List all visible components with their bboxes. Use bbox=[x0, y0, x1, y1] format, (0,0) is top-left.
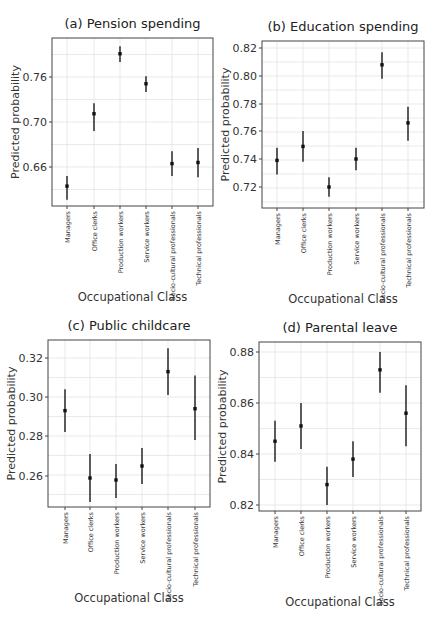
y-axis-label: Predicted probability bbox=[5, 366, 18, 480]
x-tick-label: Production workers bbox=[326, 212, 334, 275]
panel-parental-leave: 0.820.840.860.88ManagersOffice clerksPro… bbox=[216, 320, 421, 609]
y-tick-label: 0.78 bbox=[233, 98, 258, 111]
x-tick-label: Socio-cultural professionals bbox=[165, 511, 173, 601]
y-tick-label: 0.88 bbox=[230, 346, 255, 359]
x-tick-label: Production workers bbox=[324, 515, 332, 578]
y-tick-label: 0.72 bbox=[233, 181, 258, 194]
point-marker bbox=[118, 52, 121, 55]
point-marker bbox=[144, 82, 147, 85]
point-marker bbox=[301, 145, 304, 148]
x-tick-label: Managers bbox=[64, 210, 72, 242]
x-tick-label: Office clerks bbox=[300, 212, 308, 253]
point-marker bbox=[196, 161, 199, 164]
x-tick-label: Office clerks bbox=[298, 515, 306, 556]
y-tick-label: 0.74 bbox=[233, 153, 258, 166]
x-axis-label: Occupational Class bbox=[74, 591, 184, 605]
x-tick-label: Managers bbox=[62, 511, 70, 543]
x-tick-label: Technical professionals bbox=[195, 210, 203, 286]
point-marker bbox=[140, 464, 143, 467]
point-marker bbox=[114, 478, 117, 481]
x-tick-label: Managers bbox=[274, 212, 282, 244]
plot-area bbox=[48, 340, 210, 507]
x-tick-label: Technical professionals bbox=[403, 515, 411, 591]
x-tick-label: Managers bbox=[272, 515, 280, 547]
point-marker bbox=[351, 457, 354, 460]
y-tick-label: 0.32 bbox=[19, 352, 44, 365]
y-tick-label: 0.26 bbox=[19, 470, 44, 483]
x-tick-label: Production workers bbox=[117, 210, 125, 273]
x-axis-label: Occupational Class bbox=[285, 595, 395, 609]
panel-title: (d) Parental leave bbox=[282, 320, 397, 335]
x-tick-label: Technical professionals bbox=[192, 511, 200, 587]
y-tick-label: 0.66 bbox=[23, 161, 48, 174]
y-tick-label: 0.82 bbox=[230, 499, 255, 512]
y-axis-label: Predicted probability bbox=[9, 65, 22, 179]
point-marker bbox=[193, 407, 196, 410]
point-marker bbox=[92, 112, 95, 115]
x-axis-label: Occupational Class bbox=[288, 292, 398, 306]
y-tick-label: 0.28 bbox=[19, 430, 44, 443]
point-marker bbox=[325, 483, 328, 486]
point-marker bbox=[299, 424, 302, 427]
x-tick-label: Production workers bbox=[113, 511, 121, 574]
point-marker bbox=[63, 409, 66, 412]
y-tick-label: 0.86 bbox=[230, 397, 255, 410]
panel-title: (a) Pension spending bbox=[64, 16, 200, 31]
y-axis-label: Predicted probability bbox=[219, 67, 232, 181]
x-tick-label: Office clerks bbox=[91, 210, 99, 251]
point-marker bbox=[378, 368, 381, 371]
y-tick-label: 0.82 bbox=[233, 42, 258, 55]
point-marker bbox=[406, 121, 409, 124]
point-marker bbox=[404, 412, 407, 415]
panel-education-spending: 0.720.740.760.780.800.82ManagersOffice c… bbox=[219, 19, 424, 306]
point-marker bbox=[275, 159, 278, 162]
x-tick-label: Technical professionals bbox=[405, 212, 413, 288]
point-marker bbox=[380, 63, 383, 66]
y-tick-label: 0.80 bbox=[233, 70, 258, 83]
panel-title: (b) Education spending bbox=[268, 19, 419, 34]
x-axis-label: Occupational Class bbox=[78, 290, 188, 304]
point-marker bbox=[166, 370, 169, 373]
y-tick-label: 0.84 bbox=[230, 448, 255, 461]
point-marker bbox=[65, 184, 68, 187]
x-tick-label: Socio-cultural professionals bbox=[379, 212, 387, 302]
figure-svg: 0.660.700.76ManagersOffice clerksProduct… bbox=[0, 0, 434, 623]
x-tick-label: Service workers bbox=[143, 210, 151, 262]
plot-area bbox=[259, 342, 421, 511]
point-marker bbox=[273, 440, 276, 443]
x-tick-label: Socio-cultural professionals bbox=[169, 210, 177, 300]
point-marker bbox=[88, 476, 91, 479]
x-tick-label: Service workers bbox=[139, 511, 147, 563]
point-marker bbox=[170, 162, 173, 165]
y-tick-label: 0.76 bbox=[23, 71, 48, 84]
x-tick-label: Socio-cultural professionals bbox=[377, 515, 385, 605]
panel-public-childcare: 0.260.280.300.32ManagersOffice clerksPro… bbox=[5, 318, 210, 605]
point-marker bbox=[327, 185, 330, 188]
point-marker bbox=[354, 157, 357, 160]
x-tick-label: Service workers bbox=[350, 515, 358, 567]
y-tick-label: 0.70 bbox=[23, 116, 48, 129]
x-tick-label: Office clerks bbox=[87, 511, 95, 552]
plot-area bbox=[262, 41, 424, 208]
y-axis-label: Predicted probability bbox=[216, 369, 229, 483]
y-tick-label: 0.76 bbox=[233, 125, 258, 138]
y-tick-label: 0.30 bbox=[19, 391, 44, 404]
panel-pension-spending: 0.660.700.76ManagersOffice clerksProduct… bbox=[9, 16, 213, 304]
x-tick-label: Service workers bbox=[353, 212, 361, 264]
panel-title: (c) Public childcare bbox=[67, 318, 190, 333]
